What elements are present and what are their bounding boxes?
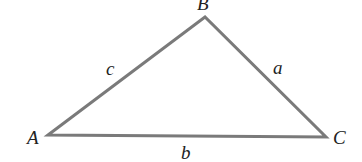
vertex-label-c: C (333, 128, 346, 147)
side-label-c: c (106, 59, 114, 78)
vertex-label-a: A (27, 128, 39, 147)
vertex-label-b: B (197, 0, 209, 13)
side-label-b: b (181, 143, 191, 162)
triangle-abc (48, 17, 326, 137)
side-label-a: a (273, 58, 283, 77)
triangle-diagram (0, 0, 362, 162)
